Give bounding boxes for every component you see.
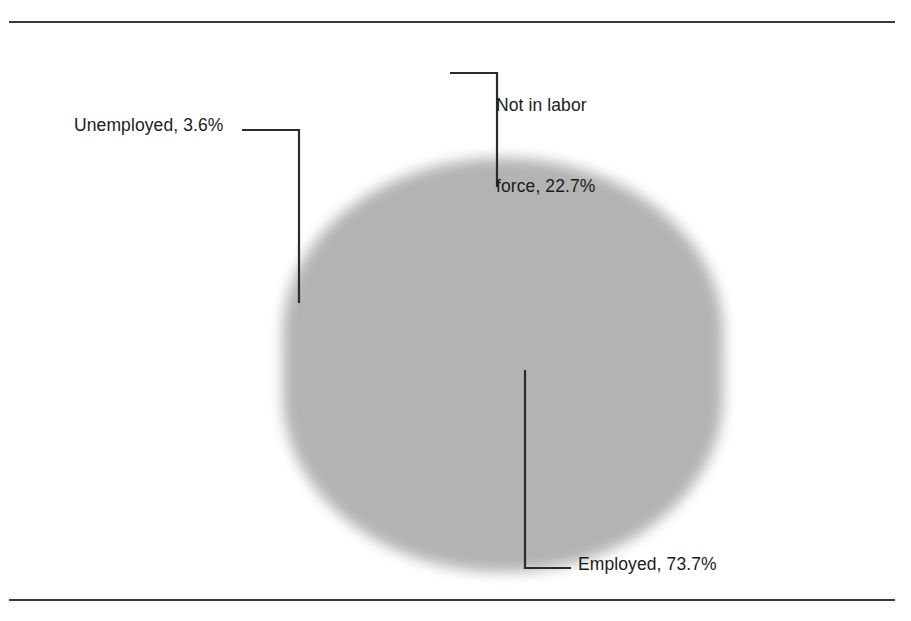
slice-label-unemployed: Unemployed, 3.6% (74, 112, 223, 139)
pie-chart-figure: Not in labor force, 22.7% Unemployed, 3.… (0, 0, 911, 621)
slice-label-not-in-labor-force-line2: force, 22.7% (496, 173, 595, 200)
slice-label-employed: Employed, 73.7% (578, 551, 717, 578)
pie-chart-graphic (0, 0, 911, 621)
slice-label-not-in-labor-force: Not in labor force, 22.7% (496, 38, 595, 254)
slice-label-not-in-labor-force-line1: Not in labor (496, 92, 595, 119)
